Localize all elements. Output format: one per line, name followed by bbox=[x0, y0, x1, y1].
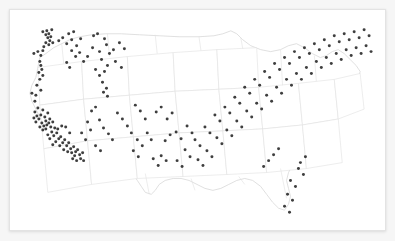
scatter-point[interactable] bbox=[184, 148, 187, 151]
scatter-point[interactable] bbox=[186, 124, 189, 127]
scatter-point[interactable] bbox=[54, 140, 57, 143]
scatter-point[interactable] bbox=[41, 128, 44, 131]
scatter-point[interactable] bbox=[58, 144, 61, 147]
scatter-point[interactable] bbox=[288, 62, 291, 65]
scatter-point[interactable] bbox=[368, 34, 371, 37]
scatter-point[interactable] bbox=[137, 155, 140, 158]
scatter-point[interactable] bbox=[81, 151, 84, 154]
scatter-point[interactable] bbox=[64, 125, 67, 128]
scatter-point[interactable] bbox=[260, 108, 263, 111]
scatter-point[interactable] bbox=[258, 84, 261, 87]
scatter-point[interactable] bbox=[36, 107, 39, 110]
scatter-point[interactable] bbox=[34, 94, 37, 97]
scatter-point[interactable] bbox=[355, 46, 358, 49]
scatter-point[interactable] bbox=[80, 131, 83, 134]
scatter-point[interactable] bbox=[90, 110, 93, 113]
scatter-point[interactable] bbox=[120, 66, 123, 69]
scatter-point[interactable] bbox=[294, 185, 297, 188]
scatter-point[interactable] bbox=[253, 78, 256, 81]
scatter-point[interactable] bbox=[41, 109, 44, 112]
scatter-point[interactable] bbox=[107, 132, 110, 135]
scatter-point[interactable] bbox=[250, 116, 253, 119]
scatter-point[interactable] bbox=[67, 32, 70, 35]
scatter-point[interactable] bbox=[44, 33, 47, 36]
scatter-point[interactable] bbox=[141, 144, 144, 147]
scatter-point[interactable] bbox=[345, 48, 348, 51]
scatter-point[interactable] bbox=[105, 87, 108, 90]
scatter-point[interactable] bbox=[263, 70, 266, 73]
scatter-point[interactable] bbox=[288, 211, 291, 214]
scatter-point[interactable] bbox=[47, 121, 50, 124]
scatter-point[interactable] bbox=[123, 47, 126, 50]
scatter-point[interactable] bbox=[38, 78, 41, 81]
scatter-point[interactable] bbox=[144, 118, 147, 121]
scatter-point[interactable] bbox=[283, 56, 286, 59]
scatter-point[interactable] bbox=[286, 193, 289, 196]
scatter-point[interactable] bbox=[48, 118, 51, 121]
scatter-point[interactable] bbox=[53, 126, 56, 129]
scatter-point[interactable] bbox=[94, 144, 97, 147]
scatter-point[interactable] bbox=[42, 124, 45, 127]
scatter-point[interactable] bbox=[68, 131, 71, 134]
scatter-point[interactable] bbox=[268, 76, 271, 79]
scatter-point[interactable] bbox=[78, 153, 81, 156]
scatter-point[interactable] bbox=[370, 50, 373, 53]
scatter-point[interactable] bbox=[291, 199, 294, 202]
scatter-point[interactable] bbox=[105, 43, 108, 46]
scatter-point[interactable] bbox=[302, 173, 305, 176]
scatter-point[interactable] bbox=[365, 44, 368, 47]
scatter-point[interactable] bbox=[41, 30, 44, 33]
scatter-point[interactable] bbox=[36, 50, 39, 53]
scatter-point[interactable] bbox=[91, 46, 94, 49]
scatter-point[interactable] bbox=[146, 131, 149, 134]
scatter-point[interactable] bbox=[103, 37, 106, 40]
scatter-point[interactable] bbox=[114, 60, 117, 63]
scatter-point[interactable] bbox=[194, 138, 197, 141]
scatter-point[interactable] bbox=[102, 126, 105, 129]
scatter-point[interactable] bbox=[130, 131, 133, 134]
scatter-point[interactable] bbox=[98, 74, 101, 77]
scatter-point[interactable] bbox=[30, 92, 33, 95]
scatter-point[interactable] bbox=[166, 118, 169, 121]
scatter-point[interactable] bbox=[245, 110, 248, 113]
scatter-point[interactable] bbox=[289, 179, 292, 182]
scatter-point[interactable] bbox=[238, 102, 241, 105]
scatter-point[interactable] bbox=[189, 155, 192, 158]
scatter-point[interactable] bbox=[37, 71, 40, 74]
scatter-point[interactable] bbox=[132, 149, 135, 152]
scatter-point[interactable] bbox=[201, 164, 204, 167]
scatter-point[interactable] bbox=[273, 62, 276, 65]
scatter-point[interactable] bbox=[96, 32, 99, 35]
scatter-point[interactable] bbox=[152, 157, 155, 160]
scatter-point[interactable] bbox=[68, 66, 71, 69]
scatter-point[interactable] bbox=[283, 205, 286, 208]
scatter-point[interactable] bbox=[295, 72, 298, 75]
scatter-point[interactable] bbox=[303, 46, 306, 49]
scatter-point[interactable] bbox=[66, 150, 69, 153]
scatter-point[interactable] bbox=[338, 40, 341, 43]
scatter-point[interactable] bbox=[72, 30, 75, 33]
scatter-point[interactable] bbox=[47, 43, 50, 46]
scatter-point[interactable] bbox=[160, 106, 163, 109]
scatter-point[interactable] bbox=[45, 29, 48, 32]
scatter-point[interactable] bbox=[50, 130, 53, 133]
scatter-point[interactable] bbox=[92, 34, 95, 37]
scatter-point[interactable] bbox=[180, 137, 183, 140]
scatter-point[interactable] bbox=[208, 131, 211, 134]
scatter-point[interactable] bbox=[320, 66, 323, 69]
scatter-point[interactable] bbox=[70, 49, 73, 52]
scatter-point[interactable] bbox=[32, 117, 35, 120]
scatter-point[interactable] bbox=[102, 91, 105, 94]
scatter-point[interactable] bbox=[44, 41, 47, 44]
scatter-point[interactable] bbox=[106, 64, 109, 67]
scatter-point[interactable] bbox=[343, 32, 346, 35]
scatter-point[interactable] bbox=[358, 36, 361, 39]
scatter-point[interactable] bbox=[43, 116, 46, 119]
scatter-point[interactable] bbox=[310, 72, 313, 75]
scatter-point[interactable] bbox=[40, 121, 43, 124]
scatter-point[interactable] bbox=[60, 124, 63, 127]
scatter-point[interactable] bbox=[55, 131, 58, 134]
scatter-point[interactable] bbox=[297, 167, 300, 170]
scatter-point[interactable] bbox=[62, 148, 65, 151]
scatter-point[interactable] bbox=[171, 112, 174, 115]
